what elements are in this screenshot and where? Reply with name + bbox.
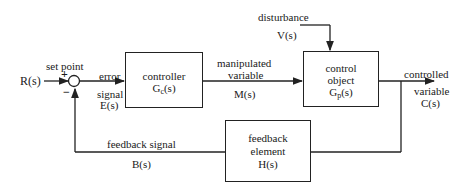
variable-label: variable bbox=[228, 69, 263, 81]
plant-label-2: object bbox=[304, 74, 378, 86]
plant-label-1: control bbox=[304, 62, 378, 74]
controller-symbol: Gc(s) bbox=[126, 82, 202, 98]
minus-sign: − bbox=[63, 86, 70, 98]
controller-label: controller bbox=[126, 70, 202, 82]
disturbance-label: disturbance bbox=[258, 11, 309, 23]
output-symbol: C(s) bbox=[421, 97, 440, 109]
feedback-element-label-1: feedback bbox=[226, 132, 310, 144]
feedback-element-symbol: H(s) bbox=[226, 158, 310, 170]
feedback-signal-symbol: B(s) bbox=[132, 158, 151, 170]
feedback-element-block: feedback element H(s) bbox=[225, 120, 311, 182]
controller-block: controller Gc(s) bbox=[125, 52, 203, 108]
plant-symbol: Gp(s) bbox=[304, 86, 378, 102]
input-symbol: R(s) bbox=[20, 75, 41, 87]
controlled-label: controlled bbox=[404, 68, 449, 80]
plus-sign: + bbox=[61, 68, 68, 80]
output-variable-label: variable bbox=[414, 85, 449, 97]
disturbance-symbol: V(s) bbox=[277, 29, 297, 41]
manipulated-label: manipulated bbox=[217, 57, 271, 69]
control-object-block: control object Gp(s) bbox=[303, 51, 379, 107]
manipulated-symbol: M(s) bbox=[234, 88, 255, 100]
error-label: error bbox=[99, 70, 120, 82]
feedback-element-label-2: element bbox=[226, 145, 310, 157]
error-symbol: E(s) bbox=[100, 99, 118, 111]
feedback-signal-label: feedback signal bbox=[107, 138, 176, 150]
